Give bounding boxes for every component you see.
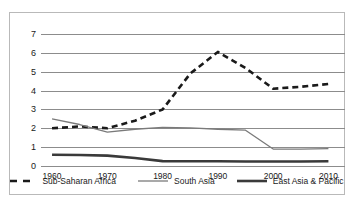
y-tick-label: 7 xyxy=(31,30,36,39)
gridline xyxy=(41,166,345,167)
series-line xyxy=(52,155,328,162)
plot-area: 01234567 196019701980199020002010 xyxy=(41,34,345,166)
y-tick-label: 3 xyxy=(31,105,36,114)
legend-item[interactable]: Sub-Saharan Africa xyxy=(10,177,116,186)
legend-label: South Asia xyxy=(174,177,215,186)
y-tick-label: 2 xyxy=(31,124,36,133)
series-layer xyxy=(41,34,345,166)
legend-item[interactable]: East Asia & Pacific xyxy=(237,177,344,186)
chart-legend: Sub-Saharan AfricaSouth AsiaEast Asia & … xyxy=(9,170,345,192)
y-tick-label: 5 xyxy=(31,67,36,76)
y-tick-label: 1 xyxy=(31,143,36,152)
legend-swatch xyxy=(10,177,36,185)
legend-swatch xyxy=(237,177,267,185)
series-line xyxy=(52,52,328,128)
y-tick-label: 6 xyxy=(31,48,36,57)
legend-item[interactable]: South Asia xyxy=(138,177,215,186)
chart-figure: 01234567 196019701980199020002010 Sub-Sa… xyxy=(0,0,355,204)
legend-label: East Asia & Pacific xyxy=(273,177,344,186)
legend-swatch xyxy=(138,177,168,185)
y-tick-label: 4 xyxy=(31,86,36,95)
chart-frame: 01234567 196019701980199020002010 xyxy=(9,12,345,195)
legend-label: Sub-Saharan Africa xyxy=(42,177,116,186)
series-line xyxy=(52,119,328,149)
